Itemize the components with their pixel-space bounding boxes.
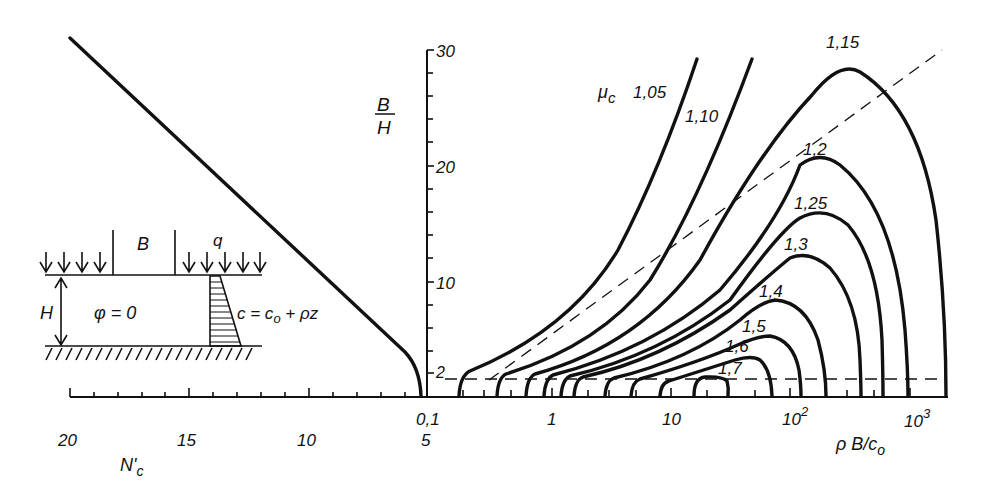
x-tick-10-log: 10 bbox=[662, 410, 681, 429]
y-axis bbox=[427, 50, 434, 397]
mu-c-legend: μc bbox=[597, 82, 616, 106]
label-1-05: 1,05 bbox=[633, 83, 667, 102]
inset-label-q: q bbox=[213, 231, 223, 250]
x-axis bbox=[70, 388, 948, 397]
x-tick-1: 1 bbox=[547, 410, 556, 429]
label-1-4: 1,4 bbox=[759, 282, 783, 301]
label-1-7: 1,7 bbox=[718, 359, 742, 378]
surcharge-arrows-right bbox=[183, 252, 266, 272]
inset-label-cohesion: c = co + ρz bbox=[237, 304, 319, 326]
y-title-denominator: H bbox=[377, 117, 391, 138]
x-tick-100: 102 bbox=[782, 404, 809, 429]
x-title-left: N'c bbox=[120, 455, 143, 479]
x-tick-15: 15 bbox=[177, 431, 196, 450]
inset-label-phi: φ = 0 bbox=[94, 303, 136, 323]
x-tick-20: 20 bbox=[57, 431, 77, 450]
x-tick-0-1: 0,1 bbox=[416, 410, 440, 429]
y-tick-20: 20 bbox=[435, 158, 455, 177]
x-title-right: ρ B/co bbox=[835, 434, 885, 458]
curve-1-05 bbox=[459, 59, 697, 396]
y-tick-10: 10 bbox=[436, 274, 455, 293]
chart-canvas: 30 20 10 2 B H bbox=[0, 0, 982, 497]
label-1-5: 1,5 bbox=[742, 317, 766, 336]
diagonal-dashed-line bbox=[489, 50, 942, 380]
label-1-3: 1,3 bbox=[784, 235, 808, 254]
x-tick-1000: 103 bbox=[904, 406, 931, 431]
inset-label-h: H bbox=[40, 303, 54, 323]
label-1-2: 1,2 bbox=[803, 140, 827, 159]
label-1-15: 1,15 bbox=[826, 33, 860, 52]
x-tick-5: 5 bbox=[421, 431, 431, 450]
y-tick-30: 30 bbox=[436, 42, 455, 61]
label-1-10: 1,10 bbox=[685, 107, 719, 126]
inset-diagram bbox=[40, 230, 266, 360]
label-1-25: 1,25 bbox=[794, 194, 828, 213]
label-1-6: 1,6 bbox=[725, 337, 749, 356]
inset-label-b: B bbox=[137, 234, 149, 254]
y-title-numerator: B bbox=[377, 94, 390, 115]
nc-line bbox=[70, 38, 421, 396]
x-tick-10: 10 bbox=[297, 431, 316, 450]
h-dimension-arrow bbox=[55, 278, 67, 345]
y-tick-2: 2 bbox=[435, 364, 445, 381]
surcharge-arrows-left bbox=[40, 252, 106, 272]
curve-1-7 bbox=[694, 377, 728, 396]
